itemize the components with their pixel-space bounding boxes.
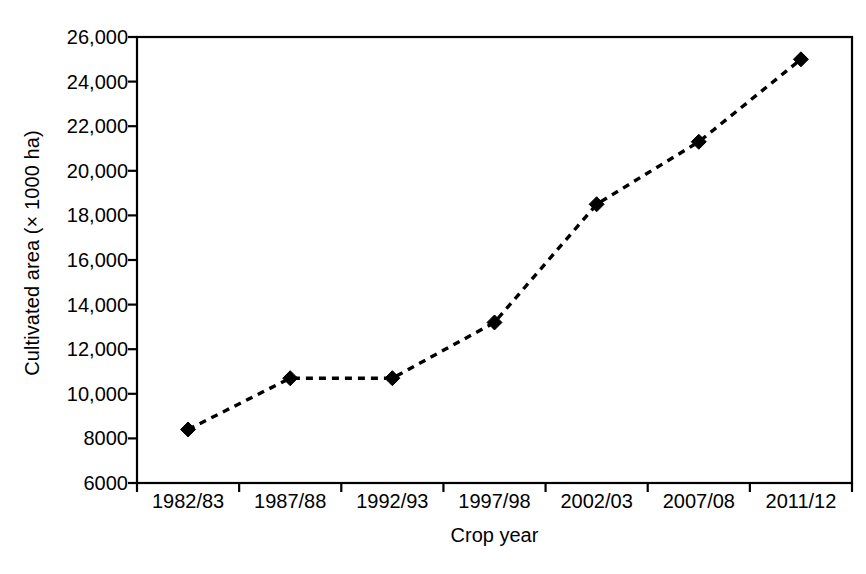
data-point-marker — [283, 371, 298, 386]
chart-figure: Cultivated area (× 1000 ha) 6000800010,0… — [0, 0, 866, 574]
series-line — [188, 59, 801, 429]
data-series-line — [188, 59, 801, 429]
plot-area — [0, 0, 866, 574]
data-point-marker — [385, 371, 400, 386]
y-axis-ticks — [128, 37, 137, 483]
data-point-marker — [181, 422, 196, 437]
x-axis-ticks — [137, 483, 852, 492]
data-point-markers — [181, 52, 809, 437]
